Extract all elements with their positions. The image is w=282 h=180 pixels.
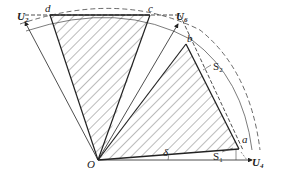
dash-a [241,152,247,160]
label-u2: U2 [17,10,29,24]
label-s1: S1 [213,150,223,164]
label-s2: S2 [213,60,223,74]
label-a: a [242,133,248,145]
label-delta: δ [163,146,169,158]
label-origin: O [87,158,95,170]
label-b: b [187,32,193,44]
label-d: d [45,2,51,14]
label-u6: U6 [176,10,188,24]
label-c: c [148,2,153,14]
vector-diagram: U2 U6 U4 d c b a O δ S1 S2 [0,0,282,180]
label-u4: U4 [252,156,264,170]
